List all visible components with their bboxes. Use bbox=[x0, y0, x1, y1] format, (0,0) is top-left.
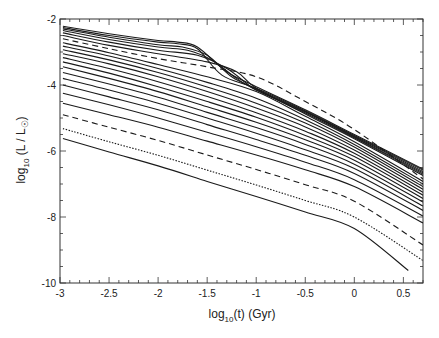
x-tick-label: -3 bbox=[56, 288, 65, 299]
y-tick-label: -4 bbox=[47, 80, 56, 91]
curve-track-8 bbox=[63, 43, 423, 182]
x-tick-label: -1 bbox=[252, 288, 261, 299]
x-axis-title: log10(t) (Gyr) bbox=[209, 307, 276, 324]
y-tick-label: -6 bbox=[47, 146, 56, 157]
x-tick-label: -2 bbox=[154, 288, 163, 299]
curve-track-21-dotted bbox=[63, 129, 423, 261]
y-tick-labels: -2-4-6-8-10 bbox=[42, 14, 57, 289]
y-tick-label: -10 bbox=[42, 278, 57, 289]
luminosity-age-chart: -3-2.5-2-1.5-1-0.500.5 -2-4-6-8-10 log10… bbox=[0, 0, 439, 338]
x-tick-labels: -3-2.5-2-1.5-1-0.500.5 bbox=[56, 288, 411, 299]
x-tick-label: -0.5 bbox=[297, 288, 315, 299]
y-tick-label: -2 bbox=[47, 14, 56, 25]
y-axis-title: log10 (L / L☉) bbox=[14, 116, 31, 183]
curve-track-1 bbox=[63, 26, 423, 169]
curve-track-9 bbox=[63, 46, 423, 184]
curve-track-11 bbox=[63, 54, 423, 190]
y-tick-label: -8 bbox=[47, 212, 56, 223]
x-tick-label: 0.5 bbox=[396, 288, 410, 299]
curve-track-19 bbox=[63, 103, 423, 223]
curves bbox=[63, 26, 423, 270]
x-tick-label: -2.5 bbox=[100, 288, 118, 299]
x-tick-label: 0 bbox=[352, 288, 358, 299]
x-tick-label: -1.5 bbox=[199, 288, 217, 299]
